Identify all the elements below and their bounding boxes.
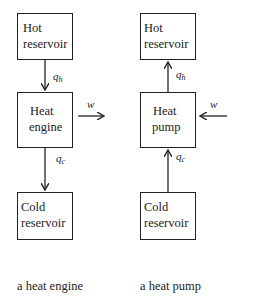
heat-pump-box: Heat pump — [140, 92, 196, 148]
engine-hot-line2: reservoir — [23, 37, 67, 52]
engine-hot-line1: Hot — [23, 21, 42, 36]
engine-qc-sub: c — [62, 157, 66, 166]
pump-caption: a heat pump (e.g., a refrigerator) — [140, 249, 238, 298]
engine-qh-sub: h — [59, 75, 63, 84]
heat-engine-box: Heat engine — [17, 92, 73, 148]
engine-caption: a heat engine (e.g., a steam engine) — [17, 249, 83, 298]
engine-w-label: w — [87, 98, 94, 110]
pump-cold-line2: reservoir — [144, 216, 188, 231]
pump-qh-sub: h — [182, 73, 186, 82]
pump-hot-line1: Hot — [144, 21, 163, 36]
engine-line1: Heat — [30, 104, 54, 119]
pump-line2: pump — [152, 120, 180, 135]
engine-caption-line1: a heat engine — [17, 279, 83, 294]
engine-qc-label: qc — [56, 152, 65, 166]
pump-qh-label: qh — [176, 68, 186, 82]
pump-hot-reservoir-box: Hot reservoir — [140, 13, 196, 60]
engine-qh-label: qh — [53, 70, 63, 84]
pump-hot-line2: reservoir — [144, 37, 188, 52]
engine-line2: engine — [29, 120, 62, 135]
pump-cold-reservoir-box: Cold reservoir — [140, 192, 196, 240]
pump-caption-line1: a heat pump — [140, 279, 238, 294]
pump-qc-sub: c — [182, 155, 186, 164]
pump-w-label: w — [210, 98, 217, 110]
pump-cold-line1: Cold — [144, 200, 168, 215]
pump-qc-label: qc — [176, 150, 185, 164]
engine-hot-reservoir-box: Hot reservoir — [17, 13, 73, 60]
engine-cold-reservoir-box: Cold reservoir — [17, 192, 73, 240]
engine-cold-line1: Cold — [21, 200, 45, 215]
pump-line1: Heat — [153, 104, 177, 119]
engine-cold-line2: reservoir — [21, 216, 65, 231]
